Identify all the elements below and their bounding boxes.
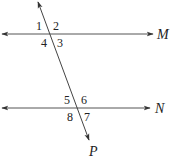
angle-7-label: 7 — [84, 110, 90, 124]
angle-6-label: 6 — [81, 93, 87, 107]
line-n-label: N — [154, 101, 165, 116]
line-m-label: M — [156, 27, 170, 42]
angle-8-label: 8 — [67, 110, 73, 124]
transversal-p-label: P — [88, 144, 98, 159]
transversal-p — [38, 2, 89, 140]
angle-5-label: 5 — [64, 93, 70, 107]
angle-1-label: 1 — [36, 19, 42, 33]
angle-4-label: 4 — [41, 36, 47, 50]
angle-3-label: 3 — [57, 36, 63, 50]
angle-2-label: 2 — [53, 19, 59, 33]
parallel-lines-transversal-diagram: M N P 1 2 4 3 5 6 8 7 — [0, 0, 173, 162]
